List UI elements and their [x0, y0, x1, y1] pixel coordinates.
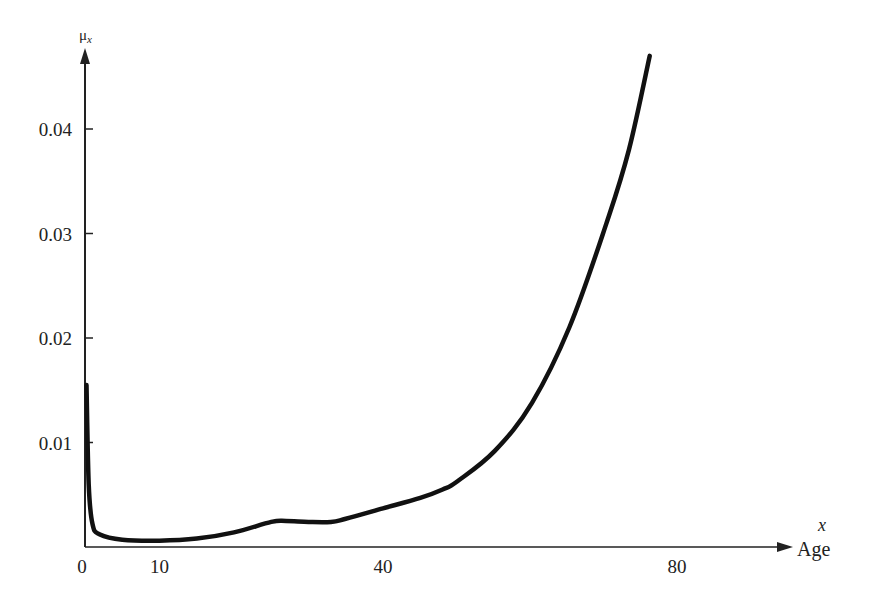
y-tick-label: 0.01	[39, 433, 72, 454]
y-axis-arrow-icon	[80, 48, 90, 64]
x-tick-label: 80	[668, 556, 687, 577]
x-tick-label: 40	[374, 556, 393, 577]
mortality-curve	[87, 56, 650, 541]
mortality-chart: μx x Age 0.010.020.030.04 0104080	[0, 0, 871, 608]
x-ticks: 0104080	[77, 556, 686, 577]
x-axis-variable: x	[817, 515, 826, 535]
x-axis-arrow-icon	[777, 542, 793, 552]
x-tick-label: 0	[77, 556, 87, 577]
x-axis-label: Age	[797, 538, 830, 561]
y-tick-label: 0.02	[39, 328, 72, 349]
x-tick-label: 10	[150, 556, 169, 577]
y-tick-label: 0.04	[39, 119, 73, 140]
y-tick-label: 0.03	[39, 224, 72, 245]
y-axis-label: μx	[79, 27, 92, 45]
